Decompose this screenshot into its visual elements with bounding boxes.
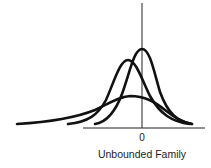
- x-tick-zero: 0: [139, 132, 145, 143]
- distribution-chart: [0, 0, 211, 168]
- chart-caption: Unbounded Family: [98, 148, 186, 160]
- curve-narrow: [95, 49, 192, 124]
